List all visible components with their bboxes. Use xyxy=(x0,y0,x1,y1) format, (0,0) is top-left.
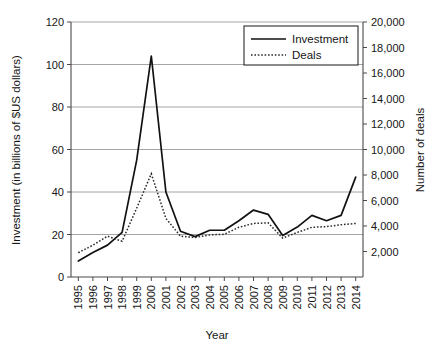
x-axis-tick-label: 1995 xyxy=(72,285,84,309)
x-axis-tick-label: 2005 xyxy=(218,285,230,309)
x-axis-title: Year xyxy=(205,329,228,341)
x-axis-tick-label: 2010 xyxy=(291,285,303,309)
legend: Investment Deals xyxy=(244,26,358,65)
y-axis-left-tick-label: 40 xyxy=(52,186,64,198)
y-axis-right-tick-label: 16,000 xyxy=(371,67,405,79)
y-axis-left-tick-label: 80 xyxy=(52,101,64,113)
x-axis-ticks: 1995199619971998199920002001200220032004… xyxy=(72,277,361,309)
line-chart: 020406080100120 2,0004,0006,0008,00010,0… xyxy=(0,0,437,347)
y-axis-left-title: Investment (in billions of $US dollars) xyxy=(10,55,22,245)
y-axis-right-tick-label: 4,000 xyxy=(371,220,399,232)
x-axis-tick-label: 2006 xyxy=(233,285,245,309)
x-axis-tick-label: 2014 xyxy=(350,285,362,309)
y-axis-left-tick-label: 60 xyxy=(52,144,64,156)
x-axis-tick-label: 2002 xyxy=(175,285,187,309)
x-axis-tick-label: 2003 xyxy=(189,285,201,309)
x-axis-tick-label: 2007 xyxy=(248,285,260,309)
legend-label-investment: Investment xyxy=(292,33,349,45)
legend-label-deals: Deals xyxy=(292,49,322,61)
y-axis-left-tick-label: 20 xyxy=(52,229,64,241)
x-axis-tick-label: 2012 xyxy=(321,285,333,309)
x-axis-tick-label: 2013 xyxy=(335,285,347,309)
x-axis-tick-label: 2001 xyxy=(160,285,172,309)
y-axis-right-ticks: 2,0004,0006,0008,00010,00012,00014,00016… xyxy=(363,16,405,258)
y-axis-left-tick-label: 100 xyxy=(46,59,64,71)
x-axis-tick-label: 1996 xyxy=(87,285,99,309)
x-axis-tick-label: 2009 xyxy=(277,285,289,309)
y-axis-left-tick-label: 0 xyxy=(58,271,64,283)
x-axis-tick-label: 2000 xyxy=(145,285,157,309)
y-axis-left-tick-label: 120 xyxy=(46,16,64,28)
x-axis-tick-label: 2011 xyxy=(306,285,318,309)
x-axis-tick-label: 2008 xyxy=(262,285,274,309)
x-axis-tick-label: 1999 xyxy=(131,285,143,309)
x-axis-tick-label: 1998 xyxy=(116,285,128,309)
chart-container: 020406080100120 2,0004,0006,0008,00010,0… xyxy=(0,0,437,347)
y-axis-right-tick-label: 20,000 xyxy=(371,16,405,28)
y-axis-right-tick-label: 6,000 xyxy=(371,195,399,207)
y-axis-right-tick-label: 12,000 xyxy=(371,118,405,130)
y-axis-right-tick-label: 18,000 xyxy=(371,42,405,54)
y-axis-right-tick-label: 14,000 xyxy=(371,93,405,105)
y-axis-right-title: Number of deals xyxy=(414,108,426,193)
y-axis-right-tick-label: 10,000 xyxy=(371,144,405,156)
x-axis-tick-label: 2004 xyxy=(204,285,216,309)
x-axis-tick-label: 1997 xyxy=(102,285,114,309)
y-axis-right-tick-label: 2,000 xyxy=(371,246,399,258)
y-axis-right-tick-label: 8,000 xyxy=(371,169,399,181)
y-axis-left-ticks: 020406080100120 xyxy=(46,16,71,283)
